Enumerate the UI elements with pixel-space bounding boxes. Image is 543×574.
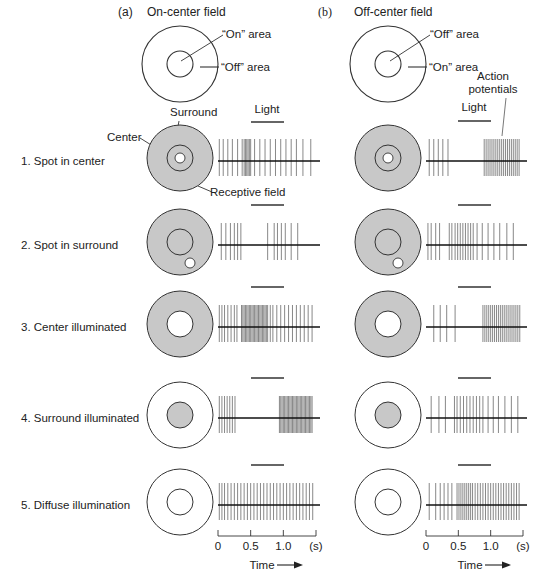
spike-train xyxy=(218,305,320,342)
tick-label: 0 xyxy=(423,540,429,552)
spike-train xyxy=(426,139,527,176)
spike-train xyxy=(218,396,320,433)
spike-train xyxy=(426,483,527,520)
spike-train xyxy=(218,139,320,176)
off-area-label: “Off” area xyxy=(221,61,271,73)
spike-train xyxy=(426,305,527,342)
light-spot xyxy=(175,153,185,163)
tick-label: 1.0 xyxy=(483,540,499,552)
tick-label: (s) xyxy=(309,540,323,552)
leader-line xyxy=(502,98,506,136)
row-label: 5. Diffuse illumination xyxy=(21,499,130,511)
arrow-head-icon xyxy=(294,562,303,569)
stimulus-row: 3. Center illuminated xyxy=(21,287,527,357)
light-label-a: Light xyxy=(255,103,281,115)
center-circle xyxy=(375,229,401,255)
row-label: 2. Spot in surround xyxy=(21,239,118,251)
leader-line xyxy=(390,35,430,61)
panel-letter-b: (b) xyxy=(318,5,332,19)
center-label: Center xyxy=(107,131,142,143)
light-spot xyxy=(185,258,195,268)
leader-line xyxy=(181,35,223,61)
receptive-field-diagram xyxy=(147,125,213,191)
stimulus-row: 5. Diffuse illumination xyxy=(21,465,527,535)
inner-ring xyxy=(375,51,401,77)
receptive-field-diagram xyxy=(355,291,421,357)
action-label-line1: Action xyxy=(477,70,509,82)
light-label-b: Light xyxy=(462,101,488,113)
center-circle-lit xyxy=(167,311,193,337)
tick-label: 1.0 xyxy=(275,540,291,552)
center-circle xyxy=(167,402,193,428)
tick-label: 0.5 xyxy=(243,540,259,552)
time-label: Time xyxy=(457,559,482,571)
off-center-schematic: “Off” area “On” area xyxy=(350,26,480,102)
center-circle xyxy=(375,402,401,428)
time-axis: 00.51.0(s)Time xyxy=(215,530,323,571)
center-circle xyxy=(167,489,193,515)
center-circle xyxy=(167,229,193,255)
row-label: 1. Spot in center xyxy=(21,155,105,167)
receptive-field-diagram xyxy=(147,209,213,275)
row-label: 4. Surround illuminated xyxy=(21,412,139,424)
receptive-field-diagram xyxy=(355,125,421,191)
arrow-head-icon xyxy=(502,562,511,569)
on-area-label: “On” area xyxy=(222,28,272,40)
surround-label: Surround xyxy=(170,106,217,118)
stimulus-row: 2. Spot in surround xyxy=(21,205,527,275)
spike-train xyxy=(218,483,320,520)
center-circle-lit xyxy=(375,311,401,337)
tick-label: 0 xyxy=(215,540,221,552)
receptive-field-diagram xyxy=(147,382,213,448)
tick-label: (s) xyxy=(516,540,530,552)
row-label: 3. Center illuminated xyxy=(21,321,126,333)
column-b-header: (b) Off-center field xyxy=(318,5,432,19)
panel-title-b: Off-center field xyxy=(354,5,432,19)
off-area-label: “Off” area xyxy=(430,28,480,40)
light-spot xyxy=(393,258,403,268)
light-spot xyxy=(383,153,393,163)
center-circle xyxy=(375,489,401,515)
spike-train xyxy=(426,396,527,433)
stimulus-row: 1. Spot in center xyxy=(21,121,527,191)
on-center-schematic: “On” area “Off” area xyxy=(142,26,272,102)
panel-letter-a: (a) xyxy=(118,5,133,19)
receptive-field-diagram xyxy=(147,469,213,535)
panel-title-a: On-center field xyxy=(147,5,226,19)
spike-train xyxy=(218,223,320,260)
inner-ring xyxy=(167,51,193,77)
time-axis: 00.51.0(s)Time xyxy=(423,530,530,571)
outer-ring xyxy=(142,26,218,102)
outer-ring xyxy=(350,26,426,102)
on-area-label: “On” area xyxy=(429,61,479,73)
receptive-field-label: Receptive field xyxy=(210,186,285,198)
receptive-field-figure: (a) On-center field (b) Off-center field… xyxy=(0,0,543,574)
receptive-field-diagram xyxy=(147,291,213,357)
action-label-line2: potentials xyxy=(468,83,517,95)
time-label: Time xyxy=(249,559,274,571)
tick-label: 0.5 xyxy=(450,540,466,552)
receptive-field-diagram xyxy=(355,469,421,535)
column-a-header: (a) On-center field xyxy=(118,5,226,19)
receptive-field-diagram xyxy=(355,209,421,275)
receptive-field-diagram xyxy=(355,382,421,448)
stimulus-row: 4. Surround illuminated xyxy=(21,378,527,448)
spike-train xyxy=(426,223,527,260)
